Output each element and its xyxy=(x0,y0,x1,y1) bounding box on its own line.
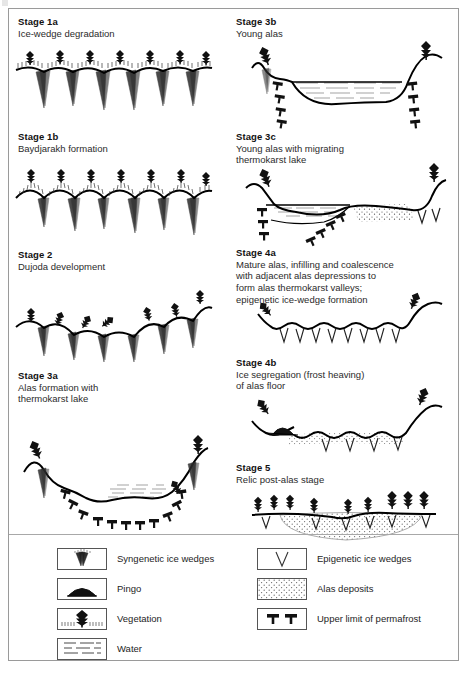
stage-1b-diagram xyxy=(14,165,214,237)
alas-floor-4b xyxy=(252,386,442,451)
stage-3a-title: Stage 3a xyxy=(18,370,218,382)
stage-3a-subtitle-line1: Alas formation with xyxy=(18,382,218,394)
syngenetic-ice-wedges-icon xyxy=(57,548,107,570)
stage-4a-subtitle-line1: Mature alas, infilling and coalescence xyxy=(236,259,461,271)
scan-artifact xyxy=(2,0,8,6)
panel-stage-3b: Stage 3b Young alas xyxy=(236,16,456,39)
legend-label-upper-limit-of-permafrost: Upper limit of permafrost xyxy=(317,612,421,625)
legend-label-vegetation: Vegetation xyxy=(117,612,162,625)
panel-stage-4b: Stage 4b Ice segregation (frost heaving)… xyxy=(236,357,461,392)
alas-deposits-icon xyxy=(257,578,307,600)
legend-label-syngenetic-ice-wedges: Syngenetic ice wedges xyxy=(117,552,214,565)
figure-thermokarst-stages: Stage 1a Ice-wedge degradation xyxy=(0,0,469,673)
permafrost-limit-3b xyxy=(272,81,421,129)
ice-wedge-group-1b xyxy=(16,169,212,235)
trees-1b xyxy=(27,169,210,186)
stage-2-diagram xyxy=(14,282,214,362)
panel-stage-3c: Stage 3c Young alas with migrating therm… xyxy=(236,131,461,166)
stage-1a-subtitle: Ice-wedge degradation xyxy=(18,28,218,40)
water-3a xyxy=(108,485,166,497)
water-icon xyxy=(57,638,107,660)
stage-4a-subtitle-line2: with adjacent alas depressions to xyxy=(236,270,461,282)
vegetation-icon xyxy=(57,608,107,630)
panel-stage-5: Stage 5 Relic post-alas stage xyxy=(236,462,461,485)
stage-3c-subtitle-line1: Young alas with migrating xyxy=(236,143,461,155)
stage-3c-subtitle-line2: thermokarst lake xyxy=(236,154,461,166)
stage-4b-subtitle-line1: Ice segregation (frost heaving) xyxy=(236,369,461,381)
stage-4a-title: Stage 4a xyxy=(236,247,461,259)
trees-1a xyxy=(26,50,210,65)
panel-stage-2: Stage 2 Dujoda development xyxy=(18,249,218,272)
upper-limit-of-permafrost-icon xyxy=(257,608,307,630)
relic-alas-5 xyxy=(252,491,436,540)
pingo-icon xyxy=(57,578,107,600)
ice-wedge-group-2 xyxy=(16,290,212,362)
stage-2-title: Stage 2 xyxy=(18,249,218,261)
water-3b xyxy=(296,83,400,98)
alas-basin-3b xyxy=(252,41,442,129)
stage-4b-diagram xyxy=(236,395,456,457)
ice-wedges-3a xyxy=(38,462,199,498)
stage-5-diagram xyxy=(236,488,456,538)
legend-label-water: Water xyxy=(117,642,142,655)
trees-3a xyxy=(28,435,203,496)
stage-3b-subtitle: Young alas xyxy=(236,28,456,40)
legend-separator xyxy=(9,534,458,535)
stage-3b-diagram xyxy=(236,44,456,126)
stage-3a-subtitle-line2: thermokarst lake xyxy=(18,393,218,405)
legend-label-epigenetic-ice-wedges: Epigenetic ice wedges xyxy=(317,552,412,565)
panel-stage-1a: Stage 1a Ice-wedge degradation xyxy=(18,16,218,39)
stage-3c-diagram xyxy=(236,176,456,242)
stage-3a-diagram xyxy=(12,412,217,527)
stage-1a-diagram xyxy=(14,50,214,120)
legend-label-pingo: Pingo xyxy=(117,582,141,595)
stage-4a-diagram xyxy=(236,300,456,352)
trees-3b xyxy=(258,41,431,67)
stage-4a-subtitle-line3: form alas thermokarst valleys; xyxy=(236,282,461,294)
stage-1a-title: Stage 1a xyxy=(18,16,218,28)
stage-1b-title: Stage 1b xyxy=(18,131,218,143)
panel-stage-4a: Stage 4a Mature alas, infilling and coal… xyxy=(236,247,461,306)
epigenetic-wedges-3c xyxy=(418,208,440,223)
stage-1b-subtitle: Baydjarakh formation xyxy=(18,143,218,155)
stage-4b-subtitle-line2: of alas floor xyxy=(236,380,461,392)
epigenetic-wedges-4a xyxy=(280,328,400,342)
stage-2-subtitle: Dujoda development xyxy=(18,261,218,273)
stage-4b-title: Stage 4b xyxy=(236,357,461,369)
legend: Syngenetic ice wedges Pingo Vegeta xyxy=(9,540,458,660)
alas-basin-3a xyxy=(24,435,208,530)
alas-basin-3c xyxy=(246,163,446,248)
ice-wedge-group-1a xyxy=(16,50,212,110)
stage-3b-title: Stage 3b xyxy=(236,16,456,28)
stage-3c-title: Stage 3c xyxy=(236,131,461,143)
stage-5-title: Stage 5 xyxy=(236,462,461,474)
legend-label-alas-deposits: Alas deposits xyxy=(317,582,374,595)
stage-5-subtitle: Relic post-alas stage xyxy=(236,474,461,486)
panel-stage-3a: Stage 3a Alas formation with thermokarst… xyxy=(18,370,218,405)
panel-stage-1b: Stage 1b Baydjarakh formation xyxy=(18,131,218,154)
epigenetic-ice-wedges-icon xyxy=(257,548,307,570)
trees-5 xyxy=(254,491,429,514)
ice-wedges-3b xyxy=(262,68,271,94)
